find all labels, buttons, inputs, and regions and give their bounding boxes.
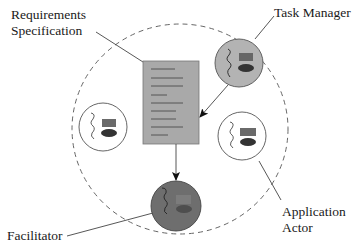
requirements-specification-label: Requirements Specification bbox=[11, 7, 86, 39]
requirements-leader-line bbox=[96, 32, 143, 62]
requirements-label-line-2: Specification bbox=[11, 23, 86, 39]
task-manager-leader-line bbox=[255, 16, 274, 39]
window-glyph-icon bbox=[239, 53, 253, 61]
requirements-specification-document bbox=[143, 61, 199, 144]
application-actor-label: Application Actor bbox=[282, 204, 346, 236]
disk-glyph-icon bbox=[176, 205, 192, 213]
window-glyph-icon bbox=[102, 119, 116, 127]
window-glyph-icon bbox=[240, 128, 256, 136]
application-actor-right-agent bbox=[218, 112, 266, 160]
window-glyph-icon bbox=[176, 195, 191, 204]
task-manager-agent bbox=[215, 39, 263, 87]
facilitator-leader-line bbox=[67, 213, 153, 236]
application-actor-label-line-2: Actor bbox=[282, 220, 346, 236]
application-actor-label-line-1: Application bbox=[282, 204, 346, 220]
facilitator-agent bbox=[151, 181, 201, 231]
application-actor-leader-line bbox=[259, 161, 281, 200]
disk-glyph-icon bbox=[238, 64, 254, 72]
disk-glyph-icon bbox=[101, 129, 117, 137]
facilitator-label: Facilitator bbox=[7, 228, 62, 244]
task-manager-label: Task Manager bbox=[274, 5, 351, 21]
task-manager-to-spec-arrow bbox=[200, 85, 228, 117]
disk-glyph-icon bbox=[240, 138, 256, 146]
requirements-label-line-1: Requirements bbox=[11, 7, 86, 23]
application-actor-left-agent bbox=[79, 103, 127, 151]
